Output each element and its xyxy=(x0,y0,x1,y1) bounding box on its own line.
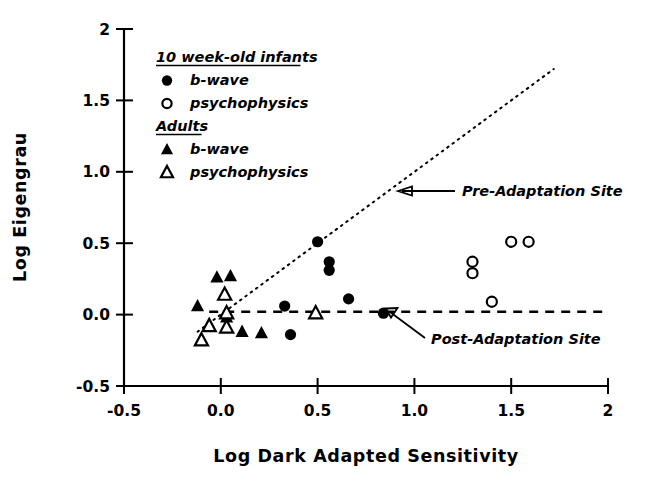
y-tick-label: 0.0 xyxy=(83,306,111,324)
pre-adaptation-label: Pre-Adaptation Site xyxy=(462,183,623,199)
annotation-pre-adaptation: Pre-Adaptation Site xyxy=(398,183,623,199)
data-point-filled-circle xyxy=(312,236,323,247)
legend-marker-open-circle xyxy=(162,99,171,108)
data-point-filled-circle xyxy=(343,293,354,304)
legend-item-label: psychophysics xyxy=(189,164,309,180)
scatter-plot: -0.50.00.51.01.52 -0.50.00.51.01.52 Log … xyxy=(0,0,645,481)
y-tick-label: 2 xyxy=(99,21,110,39)
x-axis-title: Log Dark Adapted Sensitivity xyxy=(213,446,518,466)
data-point-open-circle xyxy=(467,268,477,278)
y-tick-label: 1.5 xyxy=(83,92,110,110)
legend-marker-filled-circle xyxy=(162,75,172,85)
data-point-filled-triangle xyxy=(236,325,249,337)
series-10-week-old-infants-psychophysics xyxy=(467,237,533,307)
legend-marker-open-triangle xyxy=(161,166,173,177)
x-tick-label: 0.0 xyxy=(207,402,235,420)
x-tick-label: -0.5 xyxy=(107,402,141,420)
legend-group-heading: Adults xyxy=(155,118,208,134)
legend-item-label: b-wave xyxy=(190,141,249,157)
data-point-filled-circle xyxy=(324,265,335,276)
data-point-filled-circle xyxy=(285,329,296,340)
legend-marker-filled-triangle xyxy=(161,143,173,154)
data-point-filled-triangle xyxy=(255,326,268,338)
annotation-post-adaptation: Post-Adaptation Site xyxy=(386,308,601,347)
x-axis-ticks: -0.50.00.51.01.52 xyxy=(107,378,613,420)
data-point-open-circle xyxy=(524,237,534,247)
post-adaptation-arrow-line xyxy=(390,312,425,338)
y-axis-title: Log Eigengrau xyxy=(10,132,30,282)
data-point-open-triangle xyxy=(218,287,231,299)
legend-item-label: psychophysics xyxy=(189,95,309,111)
y-tick-label: 1.0 xyxy=(83,163,111,181)
post-adaptation-label: Post-Adaptation Site xyxy=(431,331,601,347)
legend: 10 week-old infantsb-wavepsychophysicsAd… xyxy=(155,49,318,180)
data-point-filled-triangle xyxy=(191,299,204,311)
data-point-filled-circle xyxy=(279,300,290,311)
data-point-open-circle xyxy=(506,237,516,247)
y-tick-label: 0.5 xyxy=(83,235,110,253)
data-point-filled-triangle xyxy=(210,270,223,282)
legend-group-heading: 10 week-old infants xyxy=(156,49,318,65)
x-tick-label: 2 xyxy=(603,402,614,420)
figure-container: -0.50.00.51.01.52 -0.50.00.51.01.52 Log … xyxy=(0,0,645,481)
series-10-week-old-infants-b-wave xyxy=(279,236,389,340)
x-tick-label: 0.5 xyxy=(304,402,331,420)
data-point-open-circle xyxy=(487,297,497,307)
data-point-layer xyxy=(191,236,534,345)
x-tick-label: 1.5 xyxy=(497,402,524,420)
data-point-open-triangle xyxy=(195,333,208,345)
legend-item-label: b-wave xyxy=(190,72,249,88)
data-point-open-circle xyxy=(467,257,477,267)
data-point-filled-triangle xyxy=(224,269,237,281)
x-tick-label: 1.0 xyxy=(401,402,429,420)
y-tick-label: -0.5 xyxy=(76,378,110,396)
